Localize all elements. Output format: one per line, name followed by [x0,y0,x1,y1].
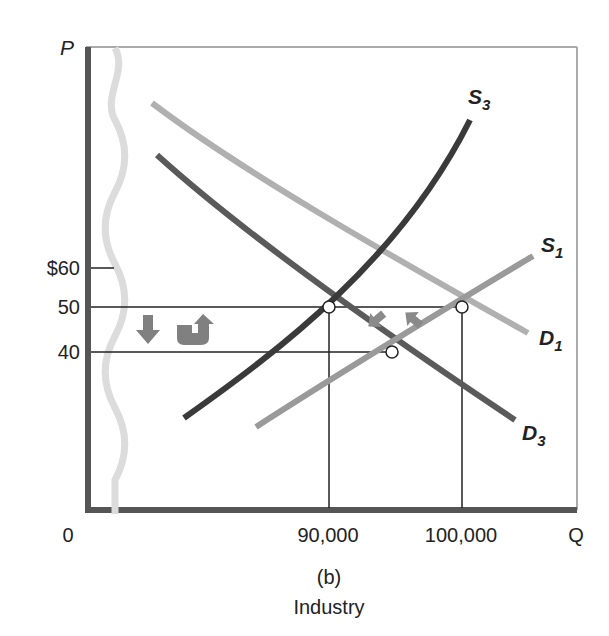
chart-subtitle: Industry [293,596,364,618]
y-tick-50: 50 [58,296,80,318]
y-tick-40: 40 [58,341,80,363]
arrow-down-icon [136,315,160,344]
label-s1: S1 [541,233,563,261]
arrow-up-curved-icon [177,314,214,345]
x-axis-label: Q [568,524,584,546]
chart: S3 S1 D1 D3 P $60 50 40 0 90,000 100,000… [0,0,609,636]
curve-d3 [157,155,515,420]
label-d1: D1 [539,326,563,354]
axis-break-icon [105,48,125,514]
equilibrium-point [386,346,398,358]
chart-caption: (b) [317,566,341,588]
origin-label: 0 [62,524,73,546]
label-s3: S3 [468,85,491,113]
curve-s3 [184,120,470,418]
label-d3: D3 [522,421,546,449]
equilibrium-point [323,301,335,313]
equilibrium-point [456,301,468,313]
x-tick-90000: 90,000 [297,524,358,546]
y-tick-60: $60 [47,257,80,279]
x-tick-100000: 100,000 [425,524,497,546]
y-axis-label: P [60,36,74,59]
